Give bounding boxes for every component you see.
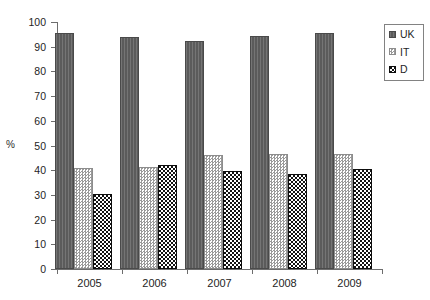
x-category-label: 2005	[77, 277, 101, 289]
x-tick	[57, 269, 58, 274]
legend-label-uk: UK	[400, 29, 415, 40]
bar-uk-2006	[120, 37, 139, 269]
x-category-label: 2006	[142, 277, 166, 289]
bar-uk-2005	[55, 33, 74, 269]
bar-it-2009	[334, 154, 353, 269]
y-tick-label: 0	[6, 263, 46, 275]
bar-d-2005	[93, 194, 112, 269]
x-tick	[382, 269, 383, 274]
y-tick-label: 80	[6, 65, 46, 77]
legend-item-d: D	[389, 64, 420, 75]
y-tick-label: 30	[6, 189, 46, 201]
legend-item-it: IT	[389, 47, 420, 58]
y-tick-label: 50	[6, 140, 46, 152]
bar-d-2007	[223, 171, 242, 269]
bar-d-2008	[288, 174, 307, 269]
y-tick-label: 90	[6, 41, 46, 53]
bar-chart: % 0102030405060708090100 200520062007200…	[0, 0, 430, 300]
legend-swatch-it	[389, 48, 396, 55]
x-tick	[252, 269, 253, 274]
y-tick-label: 20	[6, 214, 46, 226]
x-category-label: 2007	[207, 277, 231, 289]
y-tick-label: 100	[6, 16, 46, 28]
bar-uk-2008	[250, 36, 269, 269]
x-axis-line	[57, 269, 383, 270]
x-tick	[122, 269, 123, 274]
legend-label-it: IT	[400, 47, 409, 58]
bar-d-2009	[353, 169, 372, 269]
legend-swatch-uk	[389, 31, 396, 38]
x-category-label: 2009	[337, 277, 361, 289]
legend-label-d: D	[400, 64, 408, 75]
y-tick-label: 40	[6, 164, 46, 176]
legend-item-uk: UK	[389, 29, 420, 40]
legend-swatch-d	[389, 66, 396, 73]
x-category-label: 2008	[272, 277, 296, 289]
y-tick-label: 60	[6, 115, 46, 127]
bar-uk-2009	[315, 33, 334, 269]
y-tick-label: 70	[6, 90, 46, 102]
bar-it-2006	[139, 167, 158, 270]
x-tick	[317, 269, 318, 274]
chart-legend: UK IT D	[384, 24, 424, 81]
y-tick-label: 10	[6, 238, 46, 250]
bar-it-2005	[74, 168, 93, 269]
bar-it-2007	[204, 155, 223, 269]
x-tick	[187, 269, 188, 274]
plot-area	[57, 22, 382, 269]
bar-uk-2007	[185, 41, 204, 269]
bar-d-2006	[158, 165, 177, 269]
bar-it-2008	[269, 154, 288, 269]
